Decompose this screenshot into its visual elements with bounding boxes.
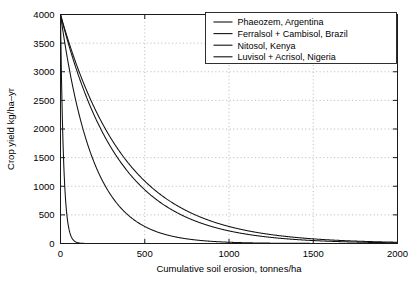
y-tick-label: 3000: [33, 66, 54, 77]
x-tick-label: 500: [137, 248, 153, 259]
chart-svg: 0500100015002000250030003500400005001000…: [0, 0, 410, 301]
chart-figure: 0500100015002000250030003500400005001000…: [0, 0, 410, 301]
y-tick-label: 1000: [33, 181, 54, 192]
x-tick-label: 1000: [218, 248, 239, 259]
y-tick-label: 4000: [33, 9, 54, 20]
x-axis-label: Cumulative soil erosion, tonnes/ha: [156, 263, 302, 274]
y-tick-label: 3500: [33, 38, 54, 49]
x-tick-label: 2000: [387, 248, 408, 259]
y-tick-label: 2000: [33, 123, 54, 134]
legend-label-4: Luvisol + Acrisol, Nigeria: [238, 52, 336, 62]
x-tick-label: 1500: [303, 248, 324, 259]
y-tick-label: 500: [39, 209, 55, 220]
y-tick-label: 0: [49, 238, 54, 249]
y-tick-label: 1500: [33, 152, 54, 163]
y-axis-label: Crop yield kg/ha–yr: [5, 88, 16, 170]
x-tick-label: 0: [58, 248, 63, 259]
legend-label-2: Ferralsol + Cambisol, Brazil: [238, 29, 348, 39]
legend-label-1: Phaeozem, Argentina: [238, 17, 324, 27]
legend-label-3: Nitosol, Kenya: [238, 41, 296, 51]
y-tick-label: 2500: [33, 95, 54, 106]
